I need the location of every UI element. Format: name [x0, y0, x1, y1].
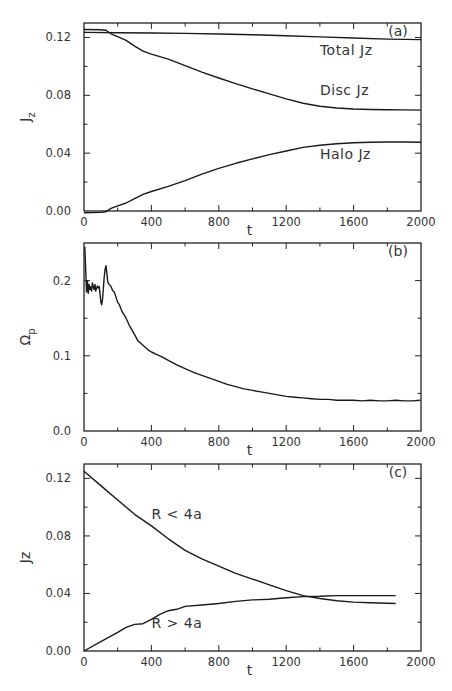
- y-tick-label: 0.08: [45, 88, 71, 102]
- x-tick-label: 1200: [272, 655, 301, 669]
- x-tick-label: 400: [140, 215, 162, 229]
- x-tick-label: 0: [80, 435, 87, 449]
- plot-frame: [84, 464, 421, 651]
- y-axis-label: Ωp: [17, 328, 37, 345]
- x-tick-label: 800: [208, 435, 230, 449]
- y-tick-label: 0.08: [45, 529, 71, 543]
- x-axis-label: t: [247, 222, 253, 238]
- panel-tag: (c): [389, 464, 408, 480]
- x-tick-label: 2000: [406, 655, 435, 669]
- y-tick-label: 0.00: [45, 644, 71, 658]
- x-tick-label: 0: [80, 215, 87, 229]
- x-tick-label: 2000: [406, 215, 435, 229]
- y-tick-label: 0.2: [53, 274, 71, 288]
- y-tick-label: 0.00: [45, 204, 71, 218]
- y-axis-label-main: Ω: [17, 335, 33, 346]
- y-tick-label: 0.04: [45, 146, 71, 160]
- panel-a: 04008001200160020000.000.040.080.12tJz(a…: [17, 23, 436, 238]
- y-axis-label: Jz: [17, 112, 37, 122]
- x-tick-label: 1600: [339, 435, 368, 449]
- x-tick-label: 1200: [272, 435, 301, 449]
- series-annotation: R > 4a: [151, 615, 202, 631]
- y-tick-label: 0.0: [53, 424, 71, 438]
- x-tick-label: 400: [140, 435, 162, 449]
- y-axis-label-main: Jz: [17, 552, 33, 564]
- series-line-r-4a: [84, 596, 396, 651]
- x-tick-label: 1600: [339, 655, 368, 669]
- x-tick-label: 1600: [339, 215, 368, 229]
- x-tick-label: 800: [208, 655, 230, 669]
- series-annotation: Halo Jz: [320, 146, 371, 162]
- x-tick-label: 1200: [272, 215, 301, 229]
- x-tick-label: 2000: [406, 435, 435, 449]
- series-line-total-jz: [84, 32, 421, 39]
- y-tick-label: 0.12: [45, 30, 71, 44]
- panel-tag: (b): [388, 243, 408, 259]
- x-tick-label: 0: [80, 655, 87, 669]
- series-line-r-4a: [84, 471, 396, 603]
- y-axis-label-sub: z: [26, 112, 37, 117]
- x-tick-label: 400: [140, 655, 162, 669]
- x-axis-label: t: [247, 442, 253, 458]
- series-line-omega-p: [85, 247, 420, 401]
- series-annotation: Total Jz: [319, 42, 373, 58]
- x-axis-label: t: [247, 662, 253, 678]
- y-axis-label: Jz: [17, 552, 33, 564]
- panel-b: 04008001200160020000.00.10.2tΩp(b): [17, 243, 436, 458]
- panel-c: 04008001200160020000.000.040.080.12tJz(c…: [17, 464, 436, 678]
- series-annotation: Disc Jz: [320, 82, 369, 98]
- y-tick-label: 0.1: [53, 349, 71, 363]
- panel-tag: (a): [388, 23, 408, 39]
- y-tick-label: 0.04: [45, 586, 71, 600]
- figure: 04008001200160020000.000.040.080.12tJz(a…: [0, 0, 452, 691]
- plot-frame: [84, 243, 421, 431]
- y-axis-label-sub: p: [26, 328, 37, 334]
- series-annotation: R < 4a: [151, 506, 202, 522]
- x-tick-label: 800: [208, 215, 230, 229]
- y-tick-label: 0.12: [45, 471, 71, 485]
